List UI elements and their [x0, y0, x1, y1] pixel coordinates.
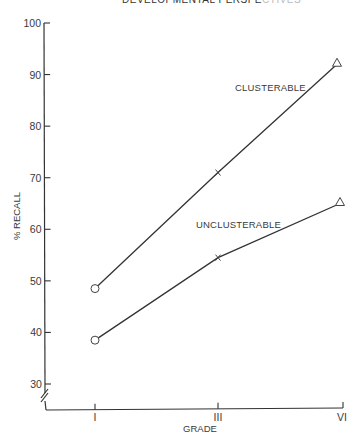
x-marker	[216, 255, 221, 261]
circle-marker	[91, 336, 99, 344]
y-tick-label: 30	[30, 378, 42, 390]
y-tick-label: 90	[29, 69, 41, 81]
y-tick-label: 80	[30, 120, 42, 132]
x-ticks: IIIIVI	[94, 402, 347, 423]
x-tick-label: III	[214, 411, 223, 423]
x-axis	[46, 408, 343, 410]
x-axis-title: GRADE	[183, 423, 217, 434]
series-label-clusterable: CLUSTERABLE	[235, 82, 306, 93]
series-group	[91, 58, 345, 344]
y-axis-title: % RECALL	[11, 192, 22, 240]
x-tick-label: I	[94, 411, 97, 423]
x-marker	[216, 170, 221, 176]
triangle-marker	[333, 58, 342, 66]
triangle-marker	[336, 198, 345, 206]
y-tick-label: 100	[23, 17, 41, 29]
y-axis-upper	[44, 23, 45, 393]
line-chart: 30405060708090100 IIIIVI GRADE % RECALL …	[0, 0, 355, 435]
y-tick-label: 50	[30, 275, 42, 287]
y-ticks: 30405060708090100	[23, 17, 51, 390]
circle-marker	[91, 285, 99, 293]
y-axis-lower	[45, 401, 46, 410]
series-label-unclusterable: UNCLUSTERABLE	[196, 219, 281, 230]
y-tick-label: 60	[30, 223, 42, 235]
x-tick-label: VI	[337, 411, 347, 423]
y-tick-label: 70	[30, 172, 42, 184]
y-tick-label: 40	[30, 326, 42, 338]
series-clusterable	[91, 58, 342, 292]
